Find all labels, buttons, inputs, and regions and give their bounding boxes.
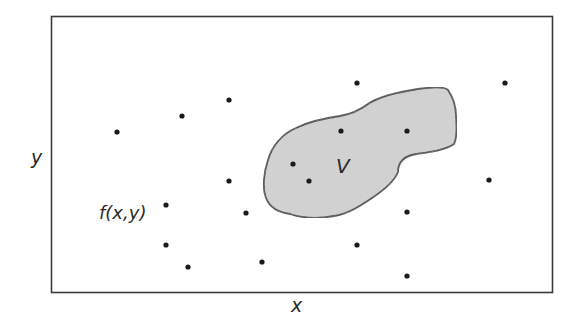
sample-point (404, 209, 409, 214)
sample-point (179, 113, 184, 118)
y-axis-label: y (31, 148, 42, 167)
sample-point (163, 242, 168, 247)
region-v-shape (264, 87, 457, 217)
sample-point-inside (404, 128, 409, 133)
sample-point (226, 97, 231, 102)
diagram-canvas (0, 0, 579, 333)
sample-point (502, 80, 507, 85)
sample-point (243, 210, 248, 215)
sample-point (226, 178, 231, 183)
region-label: V (336, 156, 350, 176)
sample-point (486, 177, 491, 182)
sample-point (185, 264, 190, 269)
sample-point (114, 129, 119, 134)
sample-point-inside (338, 128, 343, 133)
x-axis-label: x (291, 296, 302, 315)
sample-point-inside (306, 178, 311, 183)
sample-point (259, 259, 264, 264)
sample-point (354, 242, 359, 247)
sample-point (404, 273, 409, 278)
sample-point (163, 202, 168, 207)
function-label: f(x,y) (99, 204, 146, 222)
sample-point (354, 80, 359, 85)
sample-point-inside (290, 161, 295, 166)
